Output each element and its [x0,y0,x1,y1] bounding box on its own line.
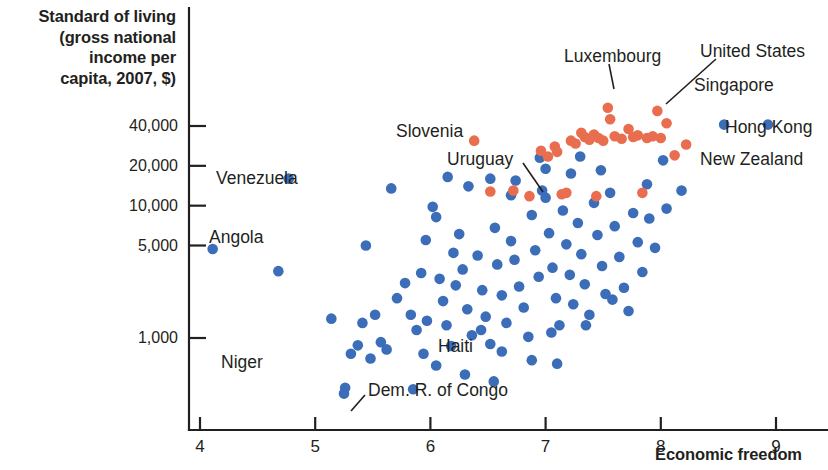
data-point [570,138,581,149]
annotation-label-dem-r-of-congo: Dem. R. of Congo [368,381,508,400]
data-point [546,327,557,338]
data-point [497,290,508,301]
data-point [361,240,372,251]
data-point [420,235,431,246]
data-point [637,188,648,199]
leader-line-luxembourg [609,64,614,89]
data-point [543,151,554,162]
data-point [339,388,350,399]
data-point [326,313,337,324]
data-point [661,203,672,214]
y-tick-label: 20,000 [60,158,178,174]
y-tick-label: 5,000 [60,238,178,254]
data-point [485,186,496,197]
data-point [554,320,565,331]
data-point [501,318,512,329]
data-point [605,188,616,199]
data-point [400,278,411,289]
data-point [584,309,595,320]
data-point [448,248,459,259]
data-point [650,243,661,254]
data-point [418,348,429,359]
data-point [381,344,392,355]
data-point [632,237,643,248]
data-point [579,279,590,290]
data-point [592,230,603,241]
data-point [406,309,417,320]
data-point [462,304,473,315]
data-point [661,118,672,129]
data-point [365,353,376,364]
data-point [607,294,618,305]
axes-group [189,8,828,430]
data-point [652,106,663,117]
x-tick-label: 4 [180,438,220,455]
annotation-label-slovenia: Slovenia [396,122,463,141]
data-point [441,320,452,331]
data-point [669,150,680,161]
data-point [463,181,474,192]
annotation-label-luxembourg: Luxembourg [564,47,661,66]
data-point [656,133,667,144]
data-point [547,262,558,273]
data-point [530,245,541,256]
data-point [454,229,465,240]
annotation-label-new-zealand: New Zealand [700,150,803,169]
data-point [514,281,525,292]
annotation-label-uruguay: Uruguay [447,150,513,169]
data-point [623,306,634,317]
x-tick-label: 5 [295,438,335,455]
data-point [552,147,563,158]
y-tick-label: 40,000 [60,118,178,134]
data-point [431,212,442,223]
data-point [460,369,471,380]
data-point [422,315,433,326]
data-point [526,355,537,366]
data-point [658,155,669,166]
data-point [540,192,551,203]
data-point [431,360,442,371]
data-point [544,228,555,239]
data-point [616,134,627,145]
annotation-label-united-states: United States [700,42,805,61]
data-point [614,252,625,263]
data-point [566,168,577,179]
data-point [524,191,535,202]
data-point [591,191,602,202]
data-point [637,267,648,278]
leader-line-dem-r-of-congo [351,395,365,411]
data-point [392,293,403,304]
data-point [273,266,284,277]
data-point [510,175,521,186]
data-point [556,189,567,200]
data-point [605,114,616,125]
annotation-label-niger: Niger [221,353,263,372]
data-point [644,213,655,224]
y-tick-label: 1,000 [60,330,178,346]
data-point [632,130,643,141]
data-point [558,205,569,216]
data-point [353,340,364,351]
data-point [438,296,449,307]
annotation-label-singapore: Singapore [694,76,774,95]
x-tick-label: 6 [410,438,450,455]
data-points-group [207,102,773,399]
data-point [564,270,575,281]
data-point [485,339,496,350]
data-point [457,264,468,275]
data-point [681,139,692,150]
data-point [540,163,551,174]
annotation-label-venezuela: Venezuela [216,169,298,188]
data-point [386,183,397,194]
y-tick-label: 10,000 [60,198,178,214]
annotation-label-angola: Angola [209,228,264,247]
data-point [598,135,609,146]
data-point [597,261,608,272]
data-point [508,185,519,196]
leader-line-uruguay [523,163,543,192]
x-axis-title: Economic freedom [655,445,802,464]
data-point [568,299,579,310]
data-point [533,272,544,283]
data-point [609,221,620,232]
annotation-label-haiti: Haiti [438,337,473,356]
